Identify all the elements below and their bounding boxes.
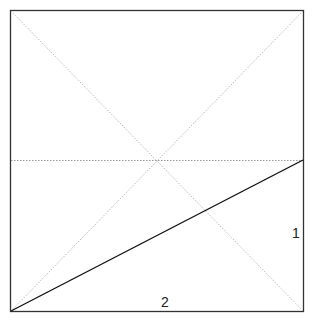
label-bottom-side: 2 [161, 294, 169, 310]
label-right-side: 1 [292, 225, 300, 241]
segment-corner-to-midpoint [11, 160, 303, 311]
diagram-canvas: 1 2 [0, 0, 312, 325]
